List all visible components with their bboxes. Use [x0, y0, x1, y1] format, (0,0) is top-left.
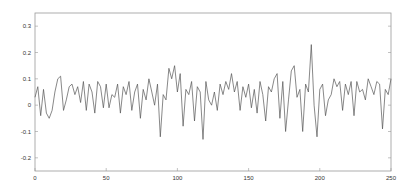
y-tick-label: -0.2 — [21, 155, 32, 161]
x-tick-label: 0 — [33, 175, 37, 181]
x-tick-label: 150 — [244, 175, 255, 181]
x-tick-label: 250 — [386, 175, 397, 181]
x-tick-label: 200 — [315, 175, 326, 181]
x-tick-label: 50 — [103, 175, 110, 181]
line-chart: 050100150200250 -0.2-0.100.10.20.3 — [0, 0, 415, 190]
y-tick-label: 0.1 — [23, 76, 32, 82]
y-tick-label: -0.1 — [21, 129, 32, 135]
y-tick-label: 0 — [28, 102, 32, 108]
x-tick-label: 100 — [172, 175, 183, 181]
y-tick-label: 0.3 — [23, 23, 32, 29]
y-tick-label: 0.2 — [23, 50, 32, 56]
